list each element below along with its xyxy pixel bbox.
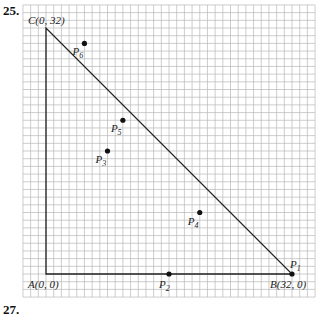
point-p4 [197, 210, 202, 215]
point-p2 [166, 271, 171, 276]
point-label-p5: P5 [110, 122, 122, 137]
point-p3 [105, 148, 110, 153]
point-p1 [289, 271, 294, 276]
point-label-p4: P4 [187, 215, 199, 230]
vertex-label-B: B(32, 0) [270, 278, 306, 291]
point-label-p1: P1 [289, 258, 301, 273]
point-label-p2: P2 [158, 278, 170, 293]
point-label-p6: P6 [71, 45, 83, 60]
point-p6 [82, 41, 87, 46]
vertex-label-A: A(0, 0) [27, 278, 59, 291]
point-label-p3: P3 [95, 153, 107, 168]
point-p5 [120, 118, 125, 123]
triangle-grid-diagram: A(0, 0)B(32, 0)C(0, 32)P1P2P3P4P5P6 [0, 0, 323, 320]
vertex-label-C: C(0, 32) [28, 14, 65, 27]
